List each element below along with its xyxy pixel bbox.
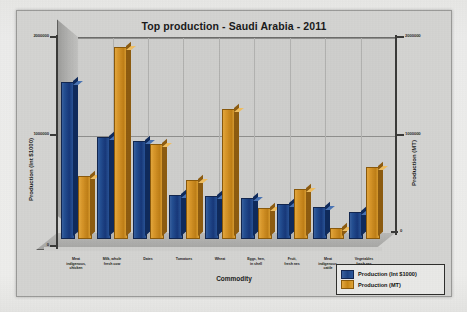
bar-orange-7 — [294, 191, 306, 239]
chart-title: Top production - Saudi Arabia - 2011 — [17, 20, 451, 32]
x-tick-line: fresh cow — [95, 262, 129, 267]
bar-side — [90, 171, 95, 236]
bar-orange-2 — [114, 49, 126, 239]
bar-side — [234, 104, 239, 236]
x-tick-line: Tomatoes — [167, 257, 201, 262]
x-tick-label-1: Meat indigenous, chicken — [59, 257, 93, 271]
y-axis-left-title: Production (Int $1000) — [28, 138, 34, 201]
y-axis-left-tick — [50, 36, 57, 38]
category-divider — [361, 38, 362, 234]
bar-blue-6 — [241, 200, 253, 239]
y-axis-left-tick-label: 0 — [19, 242, 49, 247]
bar-blue-3 — [133, 143, 145, 239]
y-axis-left-tick — [50, 245, 57, 247]
bar-orange-3 — [150, 146, 162, 239]
y-axis-left-spine — [56, 35, 58, 249]
legend-item-production-int: Production (Int $1000) — [341, 270, 440, 279]
plot-area: 2000000 1000000 0 2000000 1000000 0 — [41, 37, 413, 255]
bar-blue-2 — [97, 139, 109, 239]
bar-side — [162, 139, 167, 236]
chart-legend: Production (Int $1000) Production (MT) — [336, 264, 445, 295]
x-tick-line: Wheat — [203, 257, 237, 262]
legend-item-production-mt: Production (MT) — [341, 280, 440, 289]
bar-orange-4 — [186, 182, 198, 239]
gridline-top — [78, 38, 396, 39]
bar-side — [198, 175, 203, 236]
x-tick-label-3: Dates — [131, 257, 165, 262]
y-axis-right-tick-label: 1000000 — [405, 131, 421, 136]
x-tick-label-2: Milk, whole fresh cow — [95, 257, 129, 266]
bar-blue-1 — [61, 84, 73, 239]
y-axis-left-tick-label: 2000000 — [19, 33, 49, 38]
x-tick-line: chicken — [59, 266, 93, 271]
bar-blue-5 — [205, 198, 217, 239]
x-tick-label-4: Tomatoes — [167, 257, 201, 262]
x-tick-label-7: Fruit, fresh nes — [275, 257, 309, 266]
legend-label: Production (MT) — [358, 282, 401, 288]
bar-blue-7 — [277, 206, 289, 239]
bar-blue-8 — [313, 209, 325, 239]
chart-canvas: Top production - Saudi Arabia - 2011 Pro… — [16, 10, 452, 297]
y-axis-right-tick — [391, 231, 398, 233]
bar-orange-1 — [78, 178, 90, 239]
bar-orange-5 — [222, 111, 234, 239]
y-axis-right-tick — [397, 134, 404, 136]
x-tick-line: fresh nes — [275, 262, 309, 267]
bar-side — [378, 162, 383, 236]
bar-side — [126, 42, 131, 236]
bar-orange-8 — [330, 230, 342, 239]
plot-floor-front — [44, 247, 382, 251]
legend-label: Production (Int $1000) — [358, 271, 417, 277]
y-axis-right-tick — [397, 36, 404, 38]
y-axis-left-tick — [50, 134, 57, 136]
bar-blue-9 — [349, 214, 361, 239]
legend-swatch-orange-icon — [341, 280, 354, 289]
legend-swatch-blue-icon — [341, 270, 354, 279]
y-axis-right-tick-label: 0 — [400, 228, 402, 233]
x-tick-label-5: Wheat — [203, 257, 237, 262]
bar-blue-4 — [169, 197, 181, 239]
y-axis-left-tick-label: 1000000 — [19, 131, 49, 136]
bar-orange-9 — [366, 169, 378, 239]
bar-orange-6 — [258, 210, 270, 239]
x-tick-line: in shell — [239, 262, 273, 267]
x-tick-label-6: Eggs, hen, in shell — [239, 257, 273, 266]
x-tick-line: Dates — [131, 257, 165, 262]
scanned-chart-photo: Top production - Saudi Arabia - 2011 Pro… — [0, 0, 467, 312]
y-axis-right-tick-label: 2000000 — [405, 33, 421, 38]
